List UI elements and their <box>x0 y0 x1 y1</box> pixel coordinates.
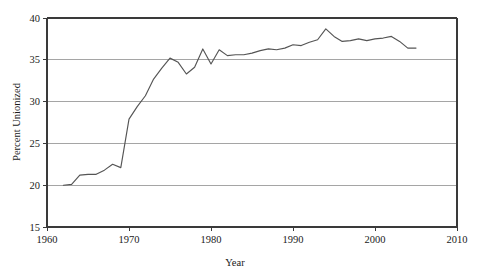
y-tick-label-30: 30 <box>30 96 41 107</box>
chart-figure: 152025303540 196019701980199020002010 Ye… <box>0 0 479 274</box>
x-tick-label-2000: 2000 <box>365 234 386 245</box>
x-axis-title: Year <box>225 257 245 268</box>
y-tick-label-35: 35 <box>30 54 41 65</box>
x-tick-label-1970: 1970 <box>119 234 140 245</box>
x-tick-label-1980: 1980 <box>201 234 222 245</box>
chart-background <box>0 0 479 274</box>
y-tick-label-15: 15 <box>30 222 41 233</box>
x-tick-label-2010: 2010 <box>447 234 468 245</box>
x-tick-label-1960: 1960 <box>37 234 58 245</box>
y-tick-label-40: 40 <box>30 13 41 24</box>
x-tick-label-1990: 1990 <box>283 234 304 245</box>
y-tick-label-20: 20 <box>30 180 41 191</box>
line-chart-svg: 152025303540 196019701980199020002010 Ye… <box>0 0 479 274</box>
y-axis-title: Percent Unionized <box>11 82 22 161</box>
y-tick-label-25: 25 <box>30 138 41 149</box>
